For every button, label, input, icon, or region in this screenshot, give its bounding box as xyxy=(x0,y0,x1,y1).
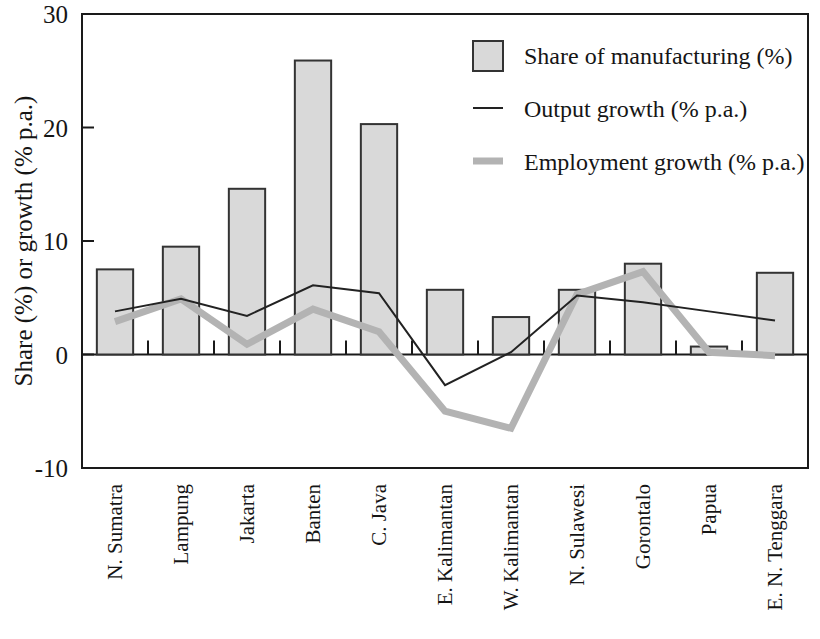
y-axis-title: Share (%) or growth (% p.a.) xyxy=(10,96,38,387)
bar xyxy=(229,189,265,355)
bar xyxy=(361,124,397,354)
x-category-label: C. Java xyxy=(367,483,391,546)
y-tick-label: 10 xyxy=(43,228,68,255)
legend-label-output: Output growth (% p.a.) xyxy=(524,96,747,122)
y-tick-label: 20 xyxy=(43,115,68,142)
x-category-label: Papua xyxy=(697,483,721,535)
legend-label-share: Share of manufacturing (%) xyxy=(524,43,793,69)
bar xyxy=(757,273,793,355)
chart-canvas: 3020100-10 Share (%) or growth (% p.a.) … xyxy=(0,0,820,639)
chart-figure: 3020100-10 Share (%) or growth (% p.a.) … xyxy=(0,0,820,639)
x-category-label: Jakarta xyxy=(235,483,259,543)
x-category-label: W. Kalimantan xyxy=(499,484,523,611)
x-category-label: Banten xyxy=(301,484,325,544)
x-category-label: Gorontalo xyxy=(631,484,655,569)
x-category-label: E. Kalimantan xyxy=(433,484,457,606)
x-category-label: E. N. Tenggara xyxy=(763,483,787,610)
bar xyxy=(427,290,463,355)
y-tick-label: -10 xyxy=(35,455,68,482)
x-category-label: N. Sumatra xyxy=(103,483,127,579)
bar xyxy=(97,269,133,354)
y-tick-label: 30 xyxy=(43,1,68,28)
y-tick-label: 0 xyxy=(56,342,69,369)
x-category-label: Lampung xyxy=(169,484,193,565)
legend-label-employment: Employment growth (% p.a.) xyxy=(524,149,805,175)
legend-swatch-share xyxy=(473,41,503,71)
x-category-label: N. Sulawesi xyxy=(565,484,589,586)
bar xyxy=(493,317,529,354)
